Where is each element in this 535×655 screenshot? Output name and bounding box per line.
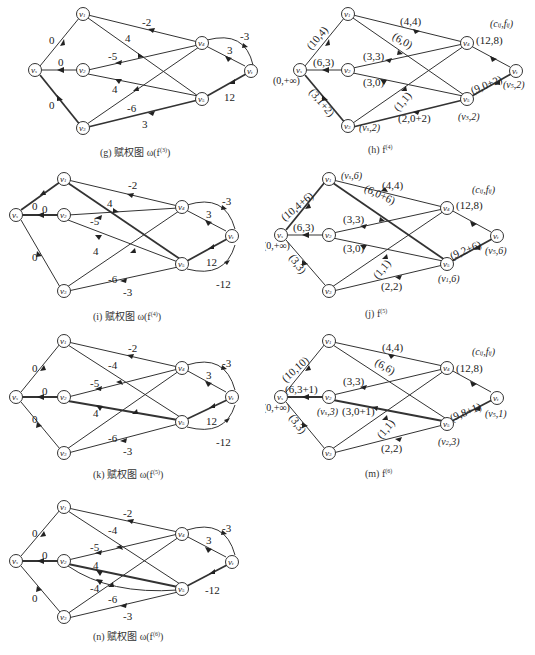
- edge-label: -2: [128, 179, 137, 191]
- label-t: (v5,2): [503, 79, 525, 91]
- edge-label: -2: [123, 507, 132, 519]
- edge-label: (6,3): [313, 56, 334, 69]
- edge-label: -12: [205, 584, 220, 596]
- legend-cf: (cij,fij): [472, 346, 496, 358]
- edge-label: (9,2+6): [448, 238, 484, 262]
- edge-label: 0: [32, 413, 38, 425]
- edge-label: (3,1+2): [306, 86, 337, 120]
- edge-label: (3,3): [343, 213, 364, 226]
- panel-n-weighted-graph: 0 0 0 -2 -4 -5 4 -4 -6 -3 3 -3 -12 vs v1…: [0, 480, 270, 655]
- panel-k-weighted-graph: 0 0 0 -2 -4 -5 4 -6 -3 3 -3 12 -12 vs v1…: [0, 325, 270, 485]
- edge-label: 12: [206, 415, 217, 427]
- edge-label: 12: [206, 256, 217, 268]
- label-v1: (vs,6): [341, 170, 363, 182]
- edge-label: (3,3): [286, 412, 309, 437]
- edge-label: 0: [49, 34, 55, 46]
- edge-label: 3: [142, 118, 148, 130]
- edge-label: -3: [123, 286, 133, 298]
- edge-label: (10,4): [304, 23, 331, 52]
- label-v3: (vs,2): [359, 122, 381, 134]
- edge-label: -3: [123, 610, 133, 622]
- edge-label: 4: [93, 245, 99, 257]
- graph-h: (10,4) (6,3) (3,1+2) (4,4) (6,0) (3,3) (…: [265, 0, 535, 170]
- graph-m: (10,10) (6,3+1) (3,3) (4,4) (6,6) (3,3) …: [265, 325, 535, 485]
- edge-label: 0: [32, 592, 38, 604]
- edge-label: -6: [108, 432, 118, 444]
- graph-k: 0 0 0 -2 -4 -5 4 -6 -3 3 -3 12 -12 vs v1…: [0, 325, 270, 485]
- edge-label: 0: [32, 251, 38, 263]
- edge-label: (9,8+1): [448, 400, 484, 424]
- edge-label: (6,6): [373, 356, 398, 378]
- caption-h: (h) f(4): [368, 144, 393, 155]
- edge-label: (4,4): [400, 15, 421, 28]
- edge-label: 0: [42, 203, 48, 215]
- panel-j-flow: (10,4+6) (6,3) (3,3) (4,4) (6,0+6) (3,3)…: [265, 165, 535, 330]
- edge-label: (3,3): [286, 252, 309, 277]
- edge-label: 4: [93, 559, 99, 571]
- edge-label: 0: [32, 527, 38, 539]
- label-v5: (v2,3): [438, 436, 460, 448]
- edge-label: (12,8): [476, 34, 503, 47]
- edge-label: 0: [49, 99, 55, 111]
- edge-label: -3: [222, 357, 232, 369]
- edge-label: 0: [32, 362, 38, 374]
- label-s: (0,+∞): [265, 402, 290, 414]
- panel-h-flow: (10,4) (6,3) (3,1+2) (4,4) (6,0) (3,3) (…: [265, 0, 535, 170]
- panel-i-weighted-graph: 0 0 0 -2 4 -5 4 -6 -3 3 -3 12 -12 vs v1 …: [0, 165, 270, 330]
- edge-label: 0: [58, 56, 64, 68]
- edge-label: -5: [90, 541, 100, 553]
- edge-label: (3,3): [343, 375, 364, 388]
- label-s: (0,+∞): [265, 240, 290, 252]
- edge-label: -2: [142, 16, 151, 28]
- edge-label: -5: [90, 215, 100, 227]
- edge-label: -3: [123, 445, 133, 457]
- edge-label: -6: [108, 273, 118, 285]
- caption-g: (g) 赋权图 ω(f(3)): [100, 144, 170, 159]
- edge-label: -3: [240, 30, 250, 42]
- edge-label: (12,8): [456, 199, 483, 212]
- edge-label: 4: [112, 83, 118, 95]
- graph-i: 0 0 0 -2 4 -5 4 -6 -3 3 -3 12 -12 vs v1 …: [0, 165, 270, 330]
- graph-j: (10,4+6) (6,3) (3,3) (4,4) (6,0+6) (3,3)…: [265, 165, 535, 330]
- edge-label: (3,0): [343, 242, 364, 255]
- edge-label: 3: [206, 534, 212, 546]
- edge-label: 3: [227, 44, 233, 56]
- label-v5: (v3,2): [458, 111, 480, 123]
- edge-label: -6: [127, 102, 137, 114]
- caption-n: (n) 赋权图 ω(f(6)): [93, 628, 163, 643]
- legend-cf: (cij,fij): [472, 184, 496, 196]
- edge-label: 0: [42, 549, 48, 561]
- label-v2: (vs,3): [317, 406, 339, 418]
- edge-label: 4: [125, 32, 131, 44]
- edge-label: -4: [108, 359, 118, 371]
- caption-m: (m) f(6): [365, 468, 392, 479]
- edge-label: 3: [206, 369, 212, 381]
- panel-g-weighted-graph: 0 0 0 -2 4 -5 4 -6 3 3 -3 12 vs v1 v2 v3…: [0, 0, 270, 170]
- edge-label: -4: [108, 524, 118, 536]
- edge-label: -5: [90, 377, 100, 389]
- edge-label: (3,0): [363, 76, 384, 89]
- edge-label: 0: [32, 200, 38, 212]
- edge-label: -4: [90, 582, 100, 594]
- caption-i: (i) 赋权图 ω(f(4)): [93, 308, 161, 323]
- edge-label: (4,4): [382, 341, 403, 354]
- label-v5: (v1,6): [438, 273, 460, 285]
- edge-label: 3: [206, 208, 212, 220]
- edge-label: 4: [93, 407, 99, 419]
- edge-label: -3: [222, 195, 232, 207]
- edge-label: 12: [224, 91, 235, 103]
- edge-label: (2,2): [381, 280, 402, 293]
- edge-label: (6,0): [390, 30, 415, 52]
- edge-label: (1,1): [391, 89, 415, 114]
- edge-label: -12: [216, 436, 231, 448]
- edge-label: -12: [216, 278, 231, 290]
- label-t: (v5,6): [485, 245, 507, 257]
- edge-label: -6: [108, 593, 118, 605]
- edge-label: (12,8): [456, 362, 483, 375]
- edge-label: (9,0+2): [469, 73, 505, 97]
- caption-j: (j) f(5): [365, 308, 387, 319]
- edge-label: -5: [108, 50, 118, 62]
- edge-label: (2,0+2): [398, 112, 431, 125]
- label-t: (v5,1): [485, 408, 507, 420]
- edge-label: 4: [107, 197, 113, 209]
